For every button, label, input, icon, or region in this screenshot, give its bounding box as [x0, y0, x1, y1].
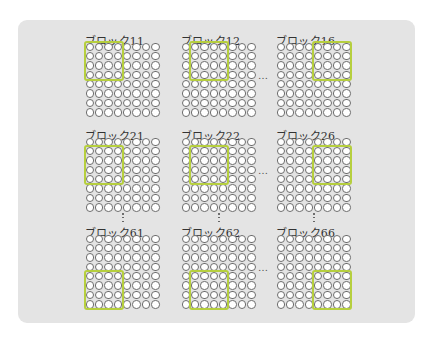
circle-cell — [247, 184, 255, 192]
circle-cell — [132, 235, 140, 243]
circle-cell — [333, 263, 341, 271]
circle-cell — [191, 43, 199, 51]
circle-cell — [333, 300, 341, 308]
circle-cell — [182, 291, 190, 299]
circle-cell — [286, 43, 294, 51]
circle-cell — [219, 253, 227, 261]
circle-cell — [95, 147, 103, 155]
circle-cell — [86, 43, 94, 51]
circle-cell — [342, 71, 350, 79]
circle-cell — [305, 291, 313, 299]
circle-cell — [238, 156, 246, 164]
circle-cell — [95, 175, 103, 183]
circle-cell — [219, 147, 227, 155]
circle-cell — [104, 175, 112, 183]
circle-cell — [305, 300, 313, 308]
circle-cell — [219, 89, 227, 97]
circle-cell — [104, 253, 112, 261]
circle-cell — [210, 71, 218, 79]
circle-cell — [191, 71, 199, 79]
circle-grid — [181, 42, 256, 117]
circle-cell — [210, 235, 218, 243]
circle-cell — [132, 194, 140, 202]
circle-cell — [228, 52, 236, 60]
circle-cell — [95, 52, 103, 60]
circle-cell — [182, 99, 190, 107]
circle-cell — [95, 263, 103, 271]
circle-cell — [247, 272, 255, 280]
circle-cell — [104, 89, 112, 97]
circle-cell — [219, 138, 227, 146]
circle-cell — [151, 244, 159, 252]
circle-cell — [228, 138, 236, 146]
circle-cell — [123, 272, 131, 280]
circle-cell — [210, 281, 218, 289]
circle-cell — [314, 291, 322, 299]
circle-cell — [132, 272, 140, 280]
circle-cell — [142, 138, 150, 146]
circle-cell — [247, 43, 255, 51]
circle-cell — [295, 272, 303, 280]
circle-cell — [342, 253, 350, 261]
circle-cell — [238, 281, 246, 289]
circle-cell — [123, 281, 131, 289]
circle-cell — [305, 43, 313, 51]
circle-cell — [219, 52, 227, 60]
circle-grid — [276, 137, 351, 212]
circle-cell — [314, 203, 322, 211]
circle-cell — [86, 71, 94, 79]
circle-cell — [210, 80, 218, 88]
circle-cell — [305, 147, 313, 155]
block-ブロック12: ブロック12 — [181, 32, 257, 118]
circle-cell — [132, 108, 140, 116]
circle-cell — [114, 138, 122, 146]
circle-grid — [85, 234, 160, 309]
circle-cell — [114, 156, 122, 164]
circle-cell — [238, 138, 246, 146]
circle-cell — [200, 263, 208, 271]
circle-cell — [342, 184, 350, 192]
circle-cell — [295, 147, 303, 155]
circle-cell — [228, 235, 236, 243]
circle-cell — [286, 52, 294, 60]
circle-grid — [276, 42, 351, 117]
circle-cell — [295, 291, 303, 299]
circle-cell — [182, 166, 190, 174]
circle-cell — [333, 99, 341, 107]
circle-cell — [86, 99, 94, 107]
circle-cell — [323, 89, 331, 97]
circle-cell — [86, 184, 94, 192]
circle-cell — [277, 175, 285, 183]
circle-cell — [314, 61, 322, 69]
circle-cell — [305, 166, 313, 174]
circle-cell — [247, 166, 255, 174]
circle-cell — [142, 61, 150, 69]
circle-cell — [295, 80, 303, 88]
circle-cell — [142, 108, 150, 116]
circle-cell — [95, 272, 103, 280]
circle-cell — [295, 52, 303, 60]
circle-cell — [228, 300, 236, 308]
circle-cell — [295, 156, 303, 164]
circle-cell — [104, 203, 112, 211]
circle-cell — [191, 272, 199, 280]
circle-cell — [123, 43, 131, 51]
circle-cell — [123, 175, 131, 183]
circle-cell — [191, 175, 199, 183]
circle-cell — [323, 71, 331, 79]
circle-cell — [323, 99, 331, 107]
circle-cell — [191, 253, 199, 261]
circle-cell — [305, 235, 313, 243]
circle-cell — [314, 108, 322, 116]
circle-cell — [228, 89, 236, 97]
circle-cell — [295, 175, 303, 183]
circle-cell — [182, 108, 190, 116]
circle-cell — [114, 291, 122, 299]
circle-cell — [200, 147, 208, 155]
circle-cell — [295, 194, 303, 202]
circle-cell — [314, 156, 322, 164]
circle-cell — [142, 175, 150, 183]
circle-cell — [323, 272, 331, 280]
circle-cell — [123, 99, 131, 107]
circle-cell — [314, 300, 322, 308]
